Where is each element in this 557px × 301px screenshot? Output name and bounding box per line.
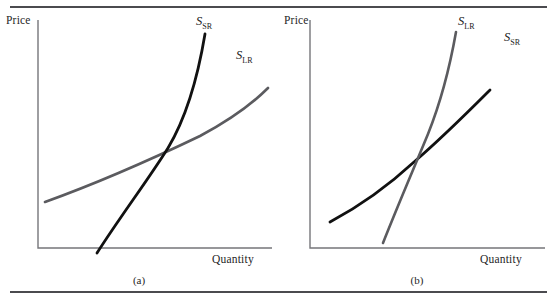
panel-a-y-axis-label: Price [6, 14, 31, 26]
panel-a-label-slr-sub: LR [242, 56, 252, 65]
panel-a: Price Quantity SSR SLR (a) [0, 0, 278, 301]
panel-a-caption: (a) [0, 274, 278, 286]
panel-b-x-axis-label: Quantity [480, 253, 522, 265]
panel-a-label-ssr: SSR [196, 14, 212, 31]
panel-a-label-slr: SLR [236, 48, 253, 65]
panel-b-label-ssr: SSR [504, 30, 520, 47]
panel-b: Price Quantity SLR SSR (b) [278, 0, 556, 301]
panel-a-x-axis-label: Quantity [212, 253, 254, 265]
panel-b-label-slr-sub: LR [464, 22, 474, 31]
figure-root: Price Quantity SSR SLR (a) Price Quantit… [0, 0, 557, 301]
panel-b-curve-ssr [330, 90, 490, 222]
panel-b-label-ssr-sub: SR [510, 38, 520, 47]
panel-a-label-ssr-sub: SR [202, 22, 212, 31]
panel-a-curve-slr [45, 88, 268, 202]
panel-b-y-axis-label: Price [284, 14, 309, 26]
panel-b-label-slr: SLR [458, 14, 475, 31]
panel-b-caption: (b) [278, 274, 556, 286]
panel-a-curve-ssr [97, 34, 205, 253]
panel-b-curve-slr [383, 32, 456, 243]
